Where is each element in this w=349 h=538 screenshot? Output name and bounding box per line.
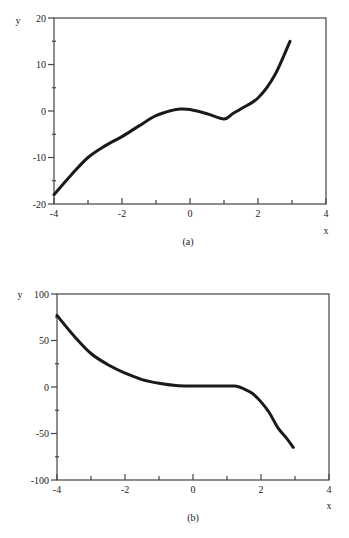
data-line-curve-b xyxy=(57,315,293,447)
panel-caption: (b) xyxy=(187,512,199,524)
x-tick-label: 0 xyxy=(188,208,193,219)
y-tick-label: 20 xyxy=(36,13,46,24)
y-axis-label: y xyxy=(18,289,23,300)
y-tick-label: 0 xyxy=(44,382,49,393)
y-tick-label: 50 xyxy=(39,335,49,346)
x-tick-label: 0 xyxy=(191,484,196,495)
y-tick-label: 10 xyxy=(36,59,46,70)
x-axis-label: x xyxy=(324,225,329,236)
data-line-curve-a xyxy=(54,41,290,194)
y-tick-label: -20 xyxy=(33,199,46,210)
x-tick-label: 4 xyxy=(327,484,332,495)
y-axis-label: y xyxy=(16,15,21,26)
chart-panel-b: -4-2024-100-50050100xy(b) xyxy=(18,289,332,525)
panel-caption: (a) xyxy=(182,236,193,248)
x-tick-label: -2 xyxy=(121,484,129,495)
x-axis-label: x xyxy=(327,500,332,511)
y-tick-label: -10 xyxy=(33,152,46,163)
chart-panel-a: -4-2024-20-1001020xy(a) xyxy=(16,13,329,249)
y-tick-label: -50 xyxy=(36,428,49,439)
x-tick-label: -4 xyxy=(50,208,58,219)
figure: -4-2024-20-1001020xy(a)-4-2024-100-50050… xyxy=(0,0,349,538)
y-tick-label: 0 xyxy=(41,106,46,117)
y-tick-label: 100 xyxy=(34,289,49,300)
x-tick-label: 2 xyxy=(259,484,264,495)
y-tick-label: -100 xyxy=(31,475,49,486)
x-tick-label: -4 xyxy=(53,484,61,495)
x-tick-label: -2 xyxy=(118,208,126,219)
x-tick-label: 2 xyxy=(256,208,261,219)
x-tick-label: 4 xyxy=(324,208,329,219)
